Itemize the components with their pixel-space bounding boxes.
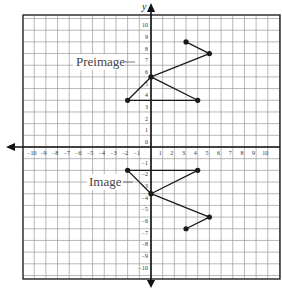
preimage-callout: Preimage xyxy=(73,54,135,70)
x-tick-label: 10 xyxy=(262,150,268,156)
y-tick-label: −7 xyxy=(142,230,148,236)
preimage-label: Preimage xyxy=(76,54,125,69)
vertex-point xyxy=(183,226,188,231)
x-tick-label: −7 xyxy=(64,150,70,156)
x-axis-left-arrow-icon xyxy=(6,143,15,151)
y-tick-label: −8 xyxy=(142,241,148,247)
x-tick-label: 4 xyxy=(194,150,197,156)
x-tick-label: −8 xyxy=(52,150,58,156)
y-tick-label: 1 xyxy=(145,127,148,133)
image-callout: Image xyxy=(87,174,133,190)
y-axis-up-arrow-icon xyxy=(147,3,155,12)
x-tick-label: 2 xyxy=(170,150,173,156)
x-tick-label: 6 xyxy=(217,150,220,156)
coordinate-plane: y −10−9−8−7−6−5−4−3−2−112345678910109876… xyxy=(0,0,282,289)
x-tick-label: −10 xyxy=(27,150,36,156)
vertex-point xyxy=(207,51,212,56)
y-tick-label: 4 xyxy=(145,92,148,98)
y-tick-label: −4 xyxy=(142,195,148,201)
y-tick-label: 6 xyxy=(145,69,148,75)
vertex-point xyxy=(207,214,212,219)
y-tick-label: −1 xyxy=(142,160,148,166)
vertex-point xyxy=(125,98,130,103)
x-tick-label: 7 xyxy=(229,150,232,156)
image-figure xyxy=(125,168,212,232)
preimage-figure xyxy=(125,39,212,103)
y-axis-label: y xyxy=(141,1,147,12)
y-tick-label: 0 xyxy=(145,139,148,145)
x-tick-label: −6 xyxy=(75,150,81,156)
vertex-point xyxy=(195,168,200,173)
y-tick-label: −6 xyxy=(142,218,148,224)
vertex-point xyxy=(148,191,153,196)
x-tick-label: −4 xyxy=(99,150,105,156)
x-tick-label: −1 xyxy=(134,150,140,156)
x-tick-label: −2 xyxy=(122,150,128,156)
y-tick-label: −9 xyxy=(142,253,148,259)
x-tick-label: 9 xyxy=(252,150,255,156)
image-label: Image xyxy=(89,174,122,189)
vertex-point xyxy=(125,168,130,173)
y-tick-label: −5 xyxy=(142,206,148,212)
y-tick-label: −10 xyxy=(139,265,148,271)
x-tick-label: 5 xyxy=(205,150,208,156)
vertex-point xyxy=(183,39,188,44)
y-tick-label: 9 xyxy=(145,34,148,40)
y-tick-label: 10 xyxy=(142,22,148,28)
y-tick-label: −2 xyxy=(142,171,148,177)
y-axis-down-arrow-icon xyxy=(147,280,155,288)
x-tick-label: 1 xyxy=(159,150,162,156)
x-tick-label: −9 xyxy=(40,150,46,156)
y-tick-label: 8 xyxy=(145,46,148,52)
vertex-point xyxy=(195,98,200,103)
y-tick-label: 3 xyxy=(145,104,148,110)
x-tick-label: 8 xyxy=(240,150,243,156)
x-tick-label: 3 xyxy=(182,150,185,156)
x-tick-label: −5 xyxy=(87,150,93,156)
x-tick-label: −3 xyxy=(110,150,116,156)
vertex-point xyxy=(148,74,153,79)
y-tick-label: 2 xyxy=(145,116,148,122)
y-tick-label: 7 xyxy=(145,57,148,63)
